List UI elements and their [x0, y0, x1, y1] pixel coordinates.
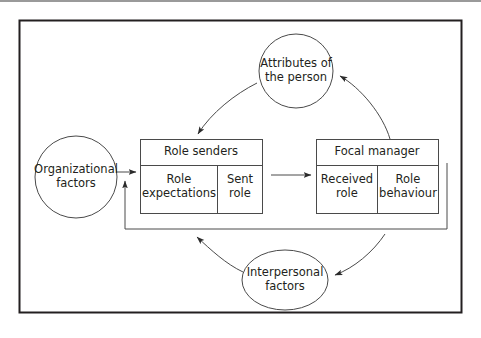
node-interpersonal-factors: [242, 250, 328, 310]
box-role-senders: [141, 140, 263, 214]
connector-attributes-to-role-senders: [198, 83, 257, 134]
connector-interpersonal-to-feedback: [197, 237, 243, 272]
connector-focal-manager-to-interpersonal: [335, 234, 385, 275]
role-episode-diagram: [0, 0, 481, 338]
node-organizational-factors: [35, 136, 117, 218]
figure-page: Organizational factors Attributes of the…: [0, 0, 481, 338]
box-focal-manager: [317, 140, 439, 214]
node-attributes-of-the-person: [259, 34, 333, 108]
connector-focal-manager-to-attributes: [340, 76, 390, 139]
